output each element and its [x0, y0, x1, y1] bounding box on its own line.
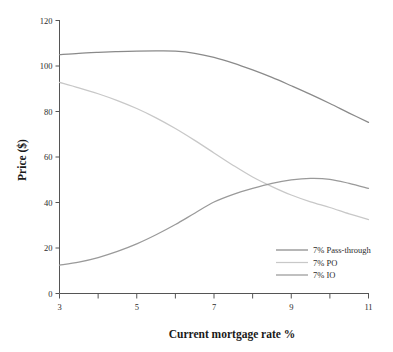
series-line-0 — [60, 51, 369, 122]
line-chart-canvas: Price ($) Current mortgage rate % 020406… — [0, 0, 393, 352]
chart-figure: Price ($) Current mortgage rate % 020406… — [0, 0, 393, 352]
x-axis-ticks: 357911 — [57, 294, 372, 312]
series-line-1 — [60, 82, 369, 219]
y-tick-label: 60 — [44, 152, 53, 162]
y-tick-label: 20 — [44, 243, 53, 253]
legend-label-2: 7% IO — [313, 270, 335, 280]
legend-label-0: 7% Pass-through — [313, 245, 372, 255]
y-axis-ticks: 020406080100120 — [40, 16, 60, 299]
x-tick-label: 11 — [364, 302, 372, 312]
y-tick-label: 80 — [44, 107, 53, 117]
x-tick-label: 3 — [57, 302, 61, 312]
y-tick-label: 120 — [40, 16, 53, 26]
y-axis-title: Price ($) — [16, 139, 29, 181]
y-tick-label: 100 — [40, 61, 53, 71]
chart-legend: 7% Pass-through7% PO7% IO — [276, 245, 372, 280]
x-axis-title: Current mortgage rate % — [169, 328, 296, 341]
y-tick-label: 0 — [48, 289, 52, 299]
series-lines — [60, 51, 369, 265]
x-tick-label: 7 — [212, 302, 216, 312]
legend-label-1: 7% PO — [313, 258, 337, 268]
y-tick-label: 40 — [44, 198, 53, 208]
x-tick-label: 9 — [289, 302, 293, 312]
x-tick-label: 5 — [135, 302, 139, 312]
